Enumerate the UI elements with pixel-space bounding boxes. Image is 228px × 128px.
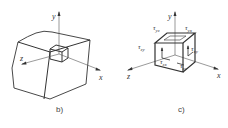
y-axis-arrow-icon bbox=[174, 11, 177, 16]
axis-label-x-c: x bbox=[216, 71, 221, 80]
stress-labels: τyz τyx τzy τxy τzx τxz bbox=[138, 24, 199, 71]
stress-diagram: y x z b) y x z bbox=[0, 0, 228, 128]
solid-body-outline bbox=[12, 31, 90, 99]
x-axis-arrow-icon bbox=[214, 67, 220, 70]
label-tau-yx: τyx bbox=[185, 24, 193, 33]
arrow-head-icon bbox=[187, 45, 189, 49]
figure-b bbox=[12, 11, 101, 99]
z-axis-arrow-icon bbox=[127, 67, 133, 71]
solid-front-edge bbox=[44, 52, 50, 99]
caption-b: b) bbox=[56, 105, 63, 114]
y-axis-arrow-icon bbox=[58, 11, 61, 16]
arrow-head-icon bbox=[161, 47, 163, 51]
caption-c: c) bbox=[178, 105, 185, 114]
label-tau-zy: τzy bbox=[138, 43, 145, 52]
axis-label-z-b: z bbox=[19, 54, 24, 63]
figure-c bbox=[127, 11, 219, 72]
axis-label-z-c: z bbox=[126, 72, 131, 81]
x-axis-arrow-icon bbox=[96, 68, 102, 71]
axes-c bbox=[128, 12, 218, 70]
axis-label-y-c: y bbox=[167, 12, 172, 21]
axis-label-y-b: y bbox=[51, 12, 56, 21]
label-tau-yz: τyz bbox=[153, 24, 160, 33]
axis-label-x-b: x bbox=[98, 73, 103, 82]
